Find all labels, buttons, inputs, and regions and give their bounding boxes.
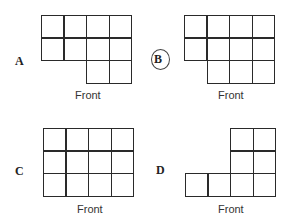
grid-cell (184, 15, 207, 38)
option-label-b: B (154, 52, 162, 67)
grid-cell (207, 15, 230, 38)
grid-cell (229, 60, 252, 83)
grid-cell (253, 128, 276, 151)
grid-cell (252, 38, 275, 61)
grid-cell (64, 38, 87, 61)
grid-cell (64, 15, 87, 38)
grid-cell (109, 15, 132, 38)
grid-cell (109, 60, 132, 83)
option-label-c: C (15, 164, 24, 179)
grid-cell (208, 173, 231, 196)
grid-cell (43, 173, 66, 196)
grid-cell (66, 151, 89, 174)
grid-cell (66, 173, 89, 196)
grid-cell (109, 38, 132, 61)
grid-cell (252, 60, 275, 83)
grid-cell (252, 15, 275, 38)
grid-cell (66, 128, 89, 151)
option-label-a: A (15, 54, 24, 69)
grid-cell (229, 15, 252, 38)
grid-cell (88, 173, 111, 196)
grid-cell (43, 128, 66, 151)
grid-cell (86, 60, 109, 83)
grid-cell (229, 38, 252, 61)
front-caption-c: Front (77, 203, 103, 215)
grid-cell (41, 15, 64, 38)
grid-cell (86, 15, 109, 38)
grid-cell (253, 173, 276, 196)
grid-cell (230, 151, 253, 174)
grid-cell (253, 151, 276, 174)
option-label-d: D (156, 163, 165, 178)
grid-cell (88, 128, 111, 151)
grid-cell (207, 38, 230, 61)
front-caption-a: Front (75, 89, 101, 101)
grid-cell (207, 60, 230, 83)
grid-cell (86, 38, 109, 61)
grid-cell (41, 38, 64, 61)
front-caption-b: Front (218, 89, 244, 101)
grid-cell (184, 38, 207, 61)
grid-cell (230, 128, 253, 151)
grid-cell (43, 151, 66, 174)
grid-cell (230, 173, 253, 196)
grid-cell (111, 173, 134, 196)
grid-cell (111, 128, 134, 151)
grid-cell (185, 173, 208, 196)
grid-cell (111, 151, 134, 174)
front-caption-d: Front (218, 203, 244, 215)
grid-cell (88, 151, 111, 174)
